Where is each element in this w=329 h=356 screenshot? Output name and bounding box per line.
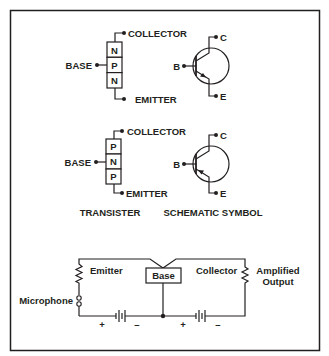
battery-right-plus-label: + (180, 319, 186, 330)
battery-left-icon (116, 310, 125, 322)
npn-region-label-middle: P (111, 60, 118, 71)
pnp-emitter-lead (114, 184, 121, 193)
npn-base-label: BASE (66, 60, 92, 71)
npn-schematic-symbol: B C E (173, 32, 229, 102)
circuit-right-wire (205, 285, 245, 316)
emitter-resistor-icon (76, 262, 82, 295)
npn-symbol-collector-label: C (220, 32, 227, 43)
npn-symbol-emitter-label: E (220, 91, 226, 102)
npn-symbol-base-terminal (182, 64, 186, 68)
microphone-icon-lower (77, 302, 81, 306)
pnp-schematic-symbol: B C E (173, 130, 229, 199)
pnp-symbol-collector-terminal (214, 133, 218, 137)
pnp-region-label-top: P (110, 141, 117, 152)
npn-region-label-top: N (111, 45, 118, 56)
base-box-label: Base (152, 270, 175, 281)
caption-transistor: TRANSISTER (80, 207, 141, 218)
npn-collector-terminal (122, 31, 126, 35)
npn-emitter-terminal (122, 97, 126, 101)
pnp-collector-label: COLLECTOR (127, 126, 186, 137)
microphone-icon-upper (77, 296, 81, 300)
npn-symbol-envelope (193, 48, 229, 84)
pnp-symbol-base-label: B (173, 159, 180, 170)
pnp-base-terminal (94, 160, 98, 164)
pnp-symbol-collector-label: C (220, 130, 227, 141)
pnp-collector-lead (114, 131, 121, 139)
pnp-transistor-block: P N P COLLECTOR EMITTER BASE (65, 126, 186, 199)
pnp-collector-terminal (120, 129, 124, 133)
pnp-emitter-label: EMITTER (126, 188, 168, 199)
transistor-diagram: N P N COLLECTOR EMITTER BASE B C E (0, 0, 329, 356)
amplifier-circuit: Base Emitter Collector Microphone Amplif… (19, 259, 300, 330)
circuit-output-label-line1: Amplified (256, 265, 299, 276)
circuit-output-label-line2: Output (262, 276, 294, 287)
npn-emitter-lead (115, 88, 123, 99)
pnp-symbol-envelope (193, 146, 229, 182)
circuit-collector-label: Collector (196, 265, 237, 276)
circuit-microphone-label: Microphone (19, 295, 73, 306)
battery-left-plus-label: + (99, 319, 105, 330)
pnp-region-label-middle: N (110, 156, 117, 167)
collector-resistor-icon (242, 266, 248, 285)
npn-collector-lead (115, 33, 123, 42)
pnp-emitter-terminal (120, 191, 124, 195)
npn-region-label-bottom: N (111, 75, 118, 86)
pnp-symbol-emitter-terminal (214, 191, 218, 195)
npn-base-terminal (95, 63, 99, 67)
npn-symbol-emitter-terminal (214, 94, 218, 98)
pnp-symbol-emitter-label: E (220, 188, 226, 199)
battery-left-minus-label: – (134, 319, 139, 330)
npn-symbol-base-label: B (173, 61, 180, 72)
npn-collector-label: COLLECTOR (128, 28, 187, 39)
battery-right-minus-label: – (215, 319, 220, 330)
battery-right-icon (196, 310, 205, 322)
caption-schematic-symbol: SCHEMATIC SYMBOL (163, 207, 262, 218)
npn-symbol-collector-terminal (214, 35, 218, 39)
npn-transistor-block: N P N COLLECTOR EMITTER BASE (66, 28, 187, 105)
circuit-emitter-label: Emitter (90, 265, 123, 276)
pnp-symbol-base-terminal (182, 162, 186, 166)
pnp-region-label-bottom: P (110, 171, 117, 182)
npn-emitter-label: EMITTER (135, 94, 177, 105)
pnp-base-label: BASE (65, 157, 91, 168)
